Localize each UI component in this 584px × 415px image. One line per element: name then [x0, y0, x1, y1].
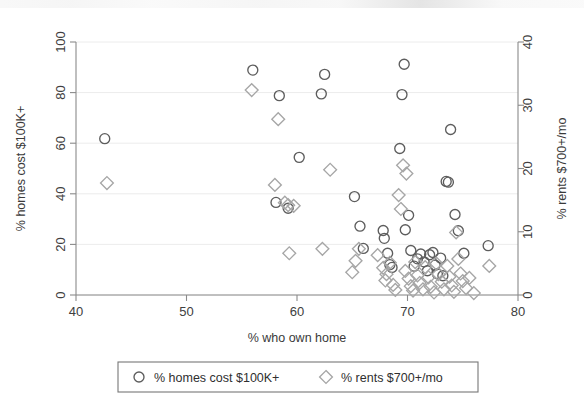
data-point-homes-cost [294, 152, 304, 162]
y-axis-left-tick-label: 80 [53, 85, 68, 99]
data-point-homes-cost [248, 65, 258, 75]
y-axis-left-tick-label: 0 [53, 291, 68, 298]
data-point-homes-cost [397, 90, 407, 100]
data-point-homes-cost [450, 210, 460, 220]
x-axis-tick-label: 40 [69, 304, 83, 319]
data-point-rents [467, 287, 480, 300]
chart-canvas: 020406080100% homes cost $100K+010203040… [0, 0, 584, 415]
data-point-rents [379, 274, 392, 287]
y-axis-right-tick-label: 40 [520, 35, 535, 49]
data-point-homes-cost [349, 192, 359, 202]
data-point-homes-cost [406, 245, 416, 255]
data-point-homes-cost [400, 225, 410, 235]
data-point-homes-cost [355, 221, 365, 231]
data-point-homes-cost [395, 144, 405, 154]
data-point-homes-cost [446, 125, 456, 135]
x-axis-tick-label: 80 [511, 304, 525, 319]
data-point-rents [454, 267, 467, 280]
data-point-rents [245, 84, 258, 97]
x-axis-tick-label: 60 [290, 304, 304, 319]
data-point-rents [283, 247, 296, 260]
data-point-homes-cost [358, 243, 368, 253]
data-point-rents [448, 285, 461, 298]
data-point-homes-cost [100, 134, 110, 144]
data-point-homes-cost [483, 241, 493, 251]
y-axis-right-tick-label: 10 [520, 225, 535, 239]
data-point-rents [101, 177, 114, 190]
data-point-rents [346, 266, 359, 279]
data-point-homes-cost [399, 59, 409, 69]
data-point-rents [394, 203, 407, 216]
data-point-rents [371, 249, 384, 262]
data-point-rents [349, 254, 362, 267]
y-axis-left-tick-label: 40 [53, 187, 68, 201]
y-axis-left-title: % homes cost $100K+ [14, 106, 28, 231]
y-axis-left-tick-label: 20 [53, 237, 68, 251]
data-point-rents [450, 226, 463, 239]
y-axis-left-tick-label: 60 [53, 136, 68, 150]
y-axis-right-title: % rents $700+/mo [555, 118, 569, 220]
y-axis-left-tick-label: 100 [53, 31, 68, 53]
data-point-rents [269, 179, 282, 192]
data-point-homes-cost [316, 89, 326, 99]
data-point-rents [324, 163, 337, 176]
x-axis-title: % who own home [248, 331, 347, 345]
x-axis-tick-label: 70 [400, 304, 414, 319]
legend-label-homes-cost: % homes cost $100K+ [154, 371, 279, 385]
data-point-rents [392, 189, 405, 202]
y-axis-right-tick-label: 0 [520, 291, 535, 298]
x-axis-tick-label: 50 [179, 304, 193, 319]
data-point-rents [272, 113, 285, 126]
data-point-homes-cost [459, 248, 469, 258]
legend-label-rents: % rents $700+/mo [341, 371, 443, 385]
scatter-chart-figure: 020406080100% homes cost $100K+010203040… [0, 0, 584, 415]
y-axis-right-tick-label: 30 [520, 98, 535, 112]
y-axis-right-tick-label: 20 [520, 161, 535, 175]
data-point-rents [483, 260, 496, 273]
data-point-homes-cost [320, 69, 330, 79]
